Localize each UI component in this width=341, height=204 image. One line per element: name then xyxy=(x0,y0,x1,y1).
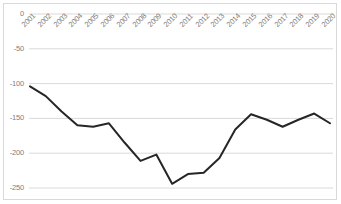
y-axis-tick-label: -250 xyxy=(0,183,24,192)
y-axis-tick-label: 0 xyxy=(0,9,24,18)
chart-container: 0-50-100-150-200-250 2001200220032004200… xyxy=(0,0,341,204)
chart-series-line xyxy=(30,86,330,183)
y-axis-tick-label: -100 xyxy=(0,79,24,88)
chart-canvas xyxy=(0,0,341,204)
y-axis-tick-label: -200 xyxy=(0,148,24,157)
chart-gridlines xyxy=(29,14,333,188)
y-axis-tick-label: -50 xyxy=(0,44,24,53)
y-axis-tick-label: -150 xyxy=(0,113,24,122)
